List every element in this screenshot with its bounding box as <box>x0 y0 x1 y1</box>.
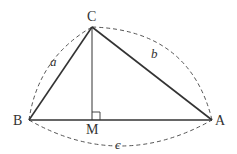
diagram-canvas: C B A M a b c <box>0 0 237 154</box>
vertex-label-b: B <box>13 113 22 128</box>
vertex-label-c: C <box>87 9 96 24</box>
side-bc <box>29 27 92 120</box>
side-label-a: a <box>50 54 57 69</box>
right-angle-marker <box>92 112 100 120</box>
vertex-label-m: M <box>86 122 99 137</box>
side-label-b: b <box>151 46 158 61</box>
side-label-c: c <box>115 137 121 152</box>
triangle-diagram: C B A M a b c <box>0 0 237 154</box>
side-ca <box>92 27 212 120</box>
vertex-label-a: A <box>215 113 226 128</box>
